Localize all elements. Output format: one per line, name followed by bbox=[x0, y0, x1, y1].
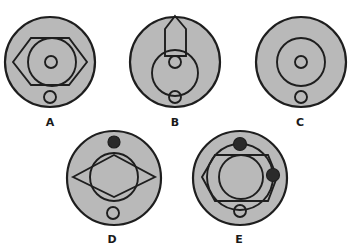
option-a: A bbox=[5, 17, 95, 129]
options-figure: A B C D E bbox=[0, 0, 351, 249]
option-c-label: C bbox=[296, 116, 304, 129]
option-a-label: A bbox=[46, 116, 55, 129]
option-b: B bbox=[130, 16, 220, 129]
option-e-label: E bbox=[235, 233, 243, 246]
option-c: C bbox=[256, 17, 346, 129]
option-d-black-dot bbox=[108, 136, 120, 148]
option-e-top-black-dot bbox=[234, 138, 247, 151]
option-b-label: B bbox=[171, 116, 179, 129]
option-a-disc bbox=[5, 17, 95, 107]
option-d-label: D bbox=[107, 233, 116, 246]
option-e-right-black-dot bbox=[267, 169, 280, 182]
option-d: D bbox=[67, 131, 161, 246]
option-e: E bbox=[193, 131, 287, 246]
option-b-disc bbox=[130, 17, 220, 107]
option-c-disc bbox=[256, 17, 346, 107]
